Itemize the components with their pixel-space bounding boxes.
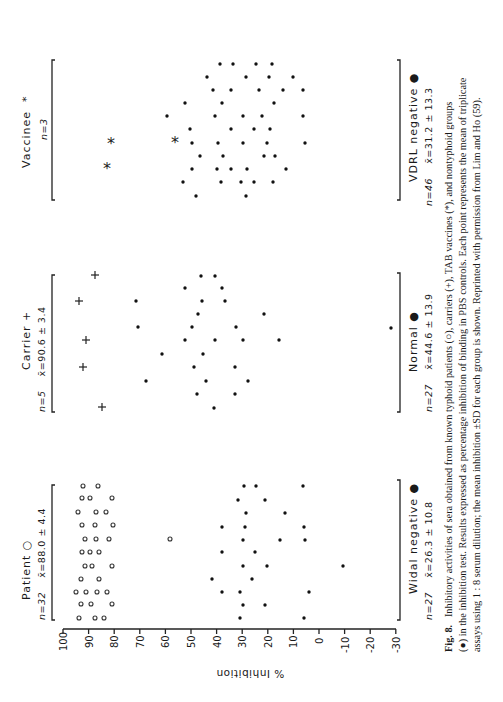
group-title-vdrl-negative: VDRL negative ● xyxy=(407,73,420,182)
group-title-normal: Normal ● xyxy=(407,311,420,372)
tick-100: 100 xyxy=(58,632,69,651)
vaccinee-points: * * * xyxy=(103,133,179,178)
normal-points xyxy=(134,274,392,409)
caption-line-2: (●) in the inhibition test. Results expr… xyxy=(456,52,470,652)
group-title-patient: Patient ○ xyxy=(20,540,33,600)
tick-20: 20 xyxy=(263,635,274,648)
tick-minus-20: -20 xyxy=(365,637,376,653)
tick-40: 40 xyxy=(212,635,223,648)
tick-50: 50 xyxy=(186,635,197,648)
axis-label: % Inhibition xyxy=(216,668,284,680)
carrier-points xyxy=(75,271,106,411)
group-stats-widal-negative: n=27 x̄=26.3 ± 10.8 xyxy=(423,501,434,620)
tick-10: 10 xyxy=(288,635,299,648)
group-stats-carrier: n=5 x̄=90.6 ± 3.4 xyxy=(36,307,47,412)
svg-text:*: * xyxy=(103,159,111,178)
tick-70: 70 xyxy=(135,635,146,648)
group-title-widal-negative: Widal negative ● xyxy=(407,483,420,594)
tick-60: 60 xyxy=(160,635,171,648)
group-title-vaccinee: Vaccinee * xyxy=(20,95,33,168)
figure-caption: Fig. 8. Inhibitory activities of sera ob… xyxy=(442,52,484,652)
tick-90: 90 xyxy=(84,635,95,648)
value-axis xyxy=(63,629,396,634)
patient-points xyxy=(74,484,172,620)
svg-text:*: * xyxy=(171,133,179,152)
tick-0: 0 xyxy=(314,638,325,644)
group-title-carrier: Carrier + xyxy=(20,311,33,370)
caption-line-1: Fig. 8. Inhibitory activities of sera ob… xyxy=(442,52,456,652)
tick-minus-10: -10 xyxy=(340,637,351,653)
figure-number: Fig. 8. xyxy=(443,625,454,652)
group-stats-vaccinee: n=3 xyxy=(38,118,49,140)
vdrl-negative-points xyxy=(165,62,306,197)
group-stats-vdrl-negative: n=46 x̄=31.2 ± 13.3 xyxy=(423,87,434,206)
tick-80: 80 xyxy=(109,635,120,648)
tick-30: 30 xyxy=(237,635,248,648)
widal-negative-points xyxy=(210,484,344,619)
group-stats-patient: n=32 x̄=88.0 ± 4.4 xyxy=(36,508,47,620)
tick-minus-30: -30 xyxy=(391,637,402,653)
group-brackets xyxy=(52,60,400,620)
caption-line-3: assays using 1 : 8 serum dilution; the m… xyxy=(470,52,484,652)
svg-text:*: * xyxy=(107,134,115,153)
group-stats-normal: n=27 x̄=44.6 ± 13.9 xyxy=(423,293,434,412)
